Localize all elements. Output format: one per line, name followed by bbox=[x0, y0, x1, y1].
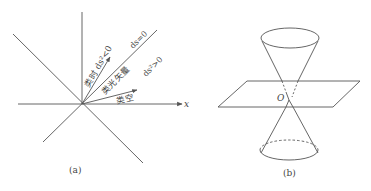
lower-cone-side-left bbox=[261, 107, 286, 153]
upper-cone-rim bbox=[261, 28, 319, 48]
spacelike-region-label: ds²>0 bbox=[141, 55, 165, 79]
light-cone-line-right bbox=[43, 30, 157, 142]
null-label: ds=0 bbox=[128, 29, 149, 50]
figure-a-spacetime-diagram bbox=[13, 12, 182, 163]
figure-canvas: x 类时 ds²<0 类光矢量 类空 ds=0 ds²>0 bbox=[0, 0, 371, 191]
figure-b-light-cone bbox=[218, 28, 360, 160]
caption-b: (b) bbox=[283, 168, 296, 178]
caption-a: (a) bbox=[69, 165, 81, 175]
origin-label: O bbox=[277, 93, 285, 103]
lower-cone-rim-front bbox=[260, 150, 318, 160]
lower-cone-side-right bbox=[293, 107, 318, 153]
lower-cone-rim-back bbox=[260, 140, 318, 150]
lightlike-label: 类光矢量 bbox=[99, 64, 132, 97]
spatial-plane bbox=[218, 81, 360, 107]
x-axis-label: x bbox=[184, 99, 189, 109]
